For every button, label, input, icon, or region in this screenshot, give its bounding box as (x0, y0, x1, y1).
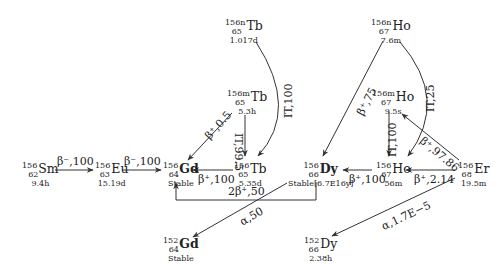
element-symbol: Er (474, 161, 489, 176)
element-symbol: Tb (250, 161, 266, 176)
mass-number: 156 (304, 161, 319, 170)
nuclide-er156: 156Er 68 19.5m (458, 160, 489, 188)
element-symbol: Ho (392, 161, 410, 176)
label-tbn-tb: IT,100 (283, 83, 294, 118)
element-symbol: Ho (392, 18, 410, 33)
nuclide-sm156: 156Sm 62 9.4h (22, 160, 59, 188)
element-symbol: Dy (320, 161, 338, 176)
mass-number: 152 (163, 236, 178, 245)
mass-number: 156n (371, 18, 391, 27)
element-symbol: Dy (320, 236, 337, 251)
element-symbol: Ho (396, 89, 414, 104)
mass-number: 156 (22, 161, 37, 170)
element-symbol: Gd (179, 236, 198, 251)
label-dy-gd-2b: 2β⁺,50 (228, 186, 265, 197)
label-hom-ho: IT,100 (387, 122, 398, 157)
half-life: Stable (163, 255, 199, 263)
mass-number: 156n (225, 18, 245, 27)
label-er-ho: β⁺,2.14 (414, 174, 454, 185)
nuclide-ho156n: 156nHo 67 7.6m (371, 17, 411, 45)
nuclide-dy156: 156Dy 66 Stable[6.7E16y] (288, 160, 353, 188)
half-life: 1.017d (225, 37, 263, 45)
label-sm-eu: β⁻,100 (57, 156, 94, 167)
half-life: 5.3h (227, 108, 267, 116)
half-life: 9.5s (372, 108, 414, 116)
element-symbol: Gd (179, 161, 198, 176)
half-life: 7.6m (371, 37, 411, 45)
label-tb-gd: β⁺,100 (198, 174, 235, 185)
nuclide-tb156n: 156nTb 65 1.017d (225, 17, 263, 45)
element-symbol: Sm (38, 161, 58, 176)
mass-number: 152 (304, 236, 319, 245)
label-eu-gd: β⁻,100 (124, 156, 161, 167)
mass-number: 156 (376, 161, 391, 170)
element-symbol: Tb (251, 89, 267, 104)
half-life: 15.19d (95, 180, 128, 188)
element-symbol: Tb (246, 18, 262, 33)
label-hon-ho: IT,25 (425, 84, 436, 112)
nuclide-dy152: 152Dy 66 2.38h (304, 235, 337, 263)
half-life: 2.38h (304, 255, 337, 263)
label-tbm-tb: IT,99.5 (233, 133, 244, 171)
nuclide-gd156: 156Gd 64 Stable (163, 160, 199, 188)
half-life: Stable[6.7E16y] (288, 180, 353, 188)
half-life: 9.4h (22, 180, 59, 188)
mass-number: 156 (163, 161, 178, 170)
half-life: 19.5m (458, 180, 489, 188)
nuclide-tb156m: 156mTb 65 5.3h (227, 88, 267, 116)
half-life: Stable (163, 180, 199, 188)
mass-number: 156 (95, 161, 110, 170)
nuclide-gd152: 152Gd 64 Stable (163, 235, 199, 263)
label-ho-dy: β⁺,100 (349, 174, 386, 185)
mass-number: 156m (227, 89, 250, 98)
